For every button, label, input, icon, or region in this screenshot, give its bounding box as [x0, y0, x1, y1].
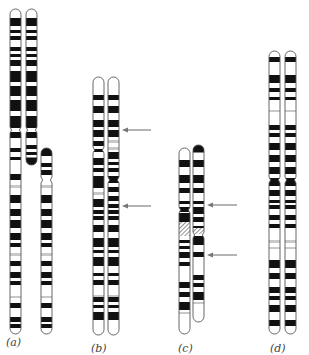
band — [179, 222, 190, 236]
band — [26, 116, 37, 128]
band — [10, 157, 21, 160]
band — [285, 155, 296, 162]
band — [269, 200, 280, 203]
band — [93, 120, 104, 127]
band — [93, 95, 104, 100]
chromosome — [269, 51, 280, 334]
band — [269, 240, 280, 243]
band — [285, 296, 296, 300]
band — [269, 305, 280, 312]
band — [41, 195, 52, 203]
chromosome — [108, 77, 119, 335]
chromosome — [10, 9, 21, 334]
band — [10, 47, 21, 51]
band — [193, 228, 204, 234]
band — [269, 296, 280, 300]
band — [179, 175, 190, 183]
band — [269, 247, 280, 249]
band — [285, 215, 296, 220]
band — [10, 261, 21, 266]
band — [285, 287, 296, 293]
band — [93, 199, 104, 207]
band — [93, 238, 104, 247]
band — [108, 273, 119, 276]
band — [269, 224, 280, 228]
band — [26, 30, 37, 33]
band — [193, 188, 204, 193]
band — [26, 145, 37, 149]
band — [193, 217, 204, 222]
band — [285, 247, 296, 249]
band — [108, 210, 119, 214]
band — [10, 174, 21, 180]
arrow-icon — [122, 128, 151, 133]
band — [269, 110, 280, 112]
band — [285, 88, 296, 92]
band — [108, 147, 119, 150]
band — [93, 168, 104, 172]
band — [108, 196, 119, 201]
band — [41, 296, 52, 298]
band — [41, 261, 52, 266]
band — [108, 257, 119, 266]
band — [285, 240, 296, 243]
band — [26, 54, 37, 57]
band — [285, 190, 296, 196]
band — [108, 238, 119, 247]
band — [193, 160, 204, 167]
band — [93, 273, 104, 276]
band — [269, 88, 280, 92]
band — [108, 120, 119, 127]
panel-d — [269, 51, 296, 334]
band — [108, 162, 119, 165]
band — [26, 36, 37, 40]
band — [193, 275, 204, 280]
band — [93, 250, 104, 253]
band — [108, 130, 119, 137]
band — [179, 262, 190, 266]
band — [10, 30, 21, 33]
band — [26, 60, 37, 66]
band — [10, 195, 21, 203]
band — [10, 132, 21, 138]
band — [193, 226, 204, 228]
arrow-icon — [207, 253, 237, 258]
band — [285, 125, 296, 130]
band — [93, 130, 104, 137]
band — [93, 225, 104, 232]
band — [285, 143, 296, 150]
band — [179, 292, 190, 297]
arrow-icon — [122, 204, 151, 209]
band — [269, 190, 280, 196]
band — [285, 305, 296, 312]
band — [93, 312, 104, 320]
band — [10, 86, 21, 96]
band — [10, 185, 21, 188]
band — [108, 225, 119, 232]
panel-label-d: (d) — [270, 342, 286, 355]
band — [10, 100, 21, 111]
band — [26, 152, 37, 155]
band — [41, 163, 52, 167]
band — [10, 317, 21, 322]
panel-label-c: (c) — [178, 342, 193, 355]
band — [93, 216, 104, 220]
band — [26, 18, 37, 26]
band — [108, 204, 119, 208]
band — [108, 280, 119, 285]
band — [269, 155, 280, 162]
panel-c — [179, 145, 237, 334]
band — [269, 287, 280, 293]
chromosome — [193, 145, 204, 322]
panel-b — [93, 77, 151, 335]
band — [10, 18, 21, 26]
band — [193, 145, 204, 150]
band — [285, 320, 296, 326]
band — [108, 168, 119, 172]
band — [93, 176, 104, 188]
band — [269, 57, 280, 62]
band — [93, 141, 104, 146]
band — [269, 205, 280, 209]
panels-layer — [10, 9, 296, 335]
band — [269, 143, 280, 150]
